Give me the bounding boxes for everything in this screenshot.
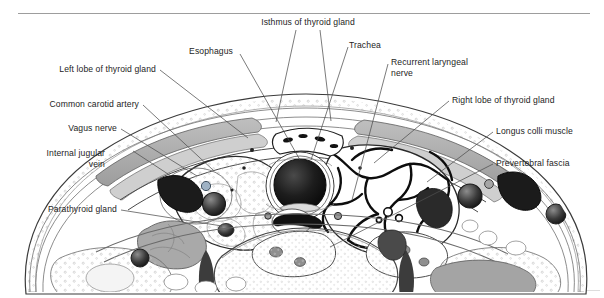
right-recurrent-laryngeal-nerve: [334, 212, 341, 219]
label-longus-colli-muscle: Longus colli muscle: [496, 126, 604, 137]
label-recurrent-laryngeal-nerve: Recurrent laryngeal nerve: [391, 57, 511, 78]
label-parathyroid-gland: Parathyroid gland: [7, 204, 117, 215]
left-recurrent-laryngeal-nerve: [265, 213, 271, 219]
isthmus-of-thyroid-gland-shape: [273, 128, 344, 156]
posterior-fat-left: [86, 264, 134, 292]
anatomical-figure: Isthmus of thyroid gland Esophagus Trach…: [0, 0, 604, 298]
label-left-lobe-of-thyroid-gland: Left lobe of thyroid gland: [16, 64, 156, 75]
label-common-carotid-artery: Common carotid artery: [9, 99, 139, 110]
label-prevertebral-fascia: Prevertebral fascia: [496, 158, 604, 169]
right-common-carotid-artery: [458, 184, 482, 208]
label-internal-jugular-vein: Internal jugular vein: [15, 148, 105, 169]
left-common-carotid-artery: [203, 193, 226, 216]
right-vagus-nerve: [485, 180, 494, 189]
left-vagus-nerve: [201, 181, 210, 190]
label-vagus-nerve: Vagus nerve: [17, 123, 117, 134]
label-isthmus-of-thyroid-gland: Isthmus of thyroid gland: [208, 17, 408, 28]
label-esophagus: Esophagus: [93, 46, 233, 57]
label-trachea: Trachea: [349, 40, 469, 51]
vertebral-vessel-left: [131, 249, 149, 267]
label-right-lobe-of-thyroid-gland: Right lobe of thyroid gland: [452, 95, 602, 106]
